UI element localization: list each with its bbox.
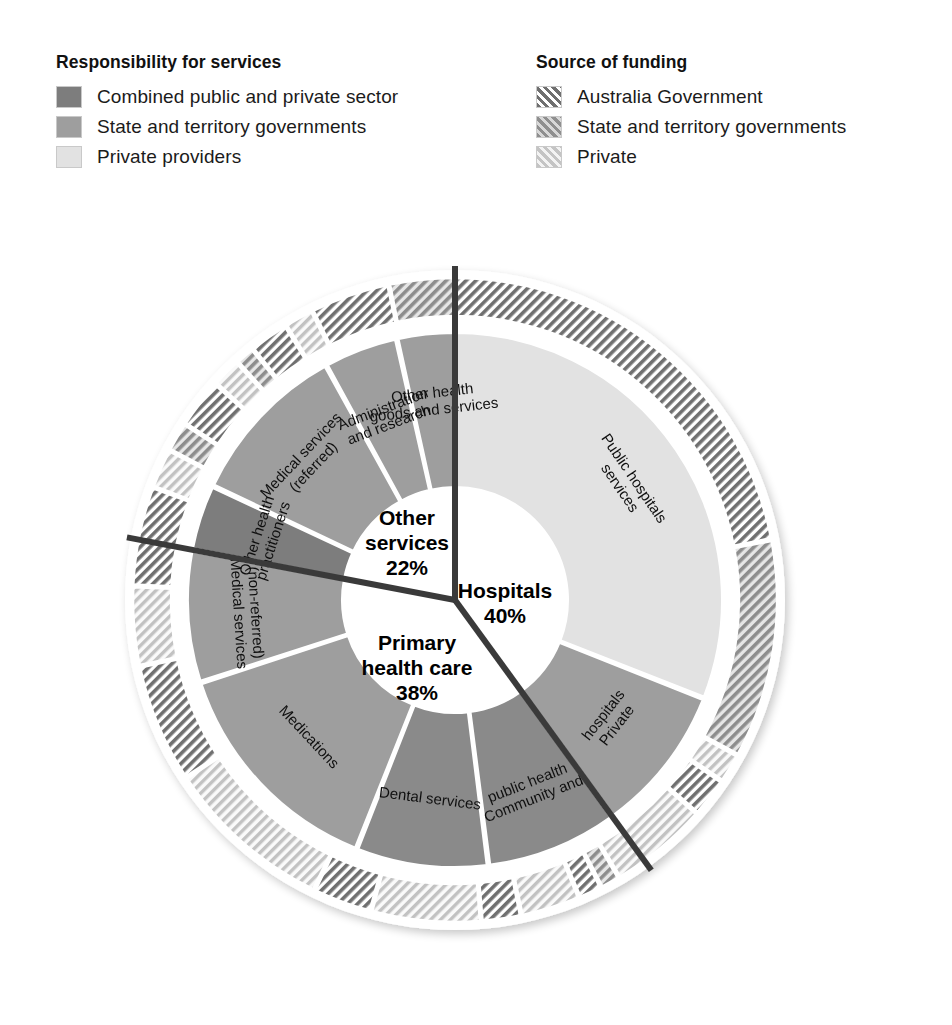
- legend-item-australia-government: Australia Government: [536, 82, 846, 112]
- legend-funding: Source of funding Australia Government S…: [536, 52, 846, 172]
- outer-ring-segment[interactable]: [479, 878, 520, 921]
- legend-responsibility-title: Responsibility for services: [56, 52, 398, 73]
- legend-item-state-territory: State and territory governments: [56, 112, 398, 142]
- outer-ring-segment[interactable]: [390, 278, 454, 322]
- legend-item-funding-state-territory: State and territory governments: [536, 112, 846, 142]
- legend-label-funding-state-territory: State and territory governments: [577, 116, 846, 138]
- center-group-name: Other: [379, 506, 435, 529]
- donut-svg: Public hospitalsserviceshospitalsPrivate…: [0, 160, 952, 1025]
- legend-item-combined: Combined public and private sector: [56, 82, 398, 112]
- legend-label-combined: Combined public and private sector: [97, 86, 398, 108]
- center-group-name: Hospitals: [458, 579, 553, 602]
- center-group-name: health care: [362, 656, 473, 679]
- outer-ring-segment[interactable]: [133, 587, 177, 665]
- swatch-combined-public-private: [56, 86, 82, 108]
- legend-label-australia-government: Australia Government: [577, 86, 763, 108]
- swatch-australia-government: [536, 86, 562, 108]
- center-group-percent: 38%: [396, 681, 438, 704]
- swatch-funding-state-territory: [536, 116, 562, 138]
- legend-responsibility: Responsibility for services Combined pub…: [56, 52, 398, 172]
- swatch-state-territory: [56, 116, 82, 138]
- legend-label-state-territory: State and territory governments: [97, 116, 366, 138]
- center-group-name: services: [365, 531, 449, 554]
- center-group-name: Primary: [378, 631, 457, 654]
- sunburst-chart: Public hospitalsserviceshospitalsPrivate…: [0, 160, 952, 1025]
- center-group-percent: 40%: [484, 604, 526, 627]
- center-group-percent: 22%: [386, 556, 428, 579]
- legend-funding-title: Source of funding: [536, 52, 846, 73]
